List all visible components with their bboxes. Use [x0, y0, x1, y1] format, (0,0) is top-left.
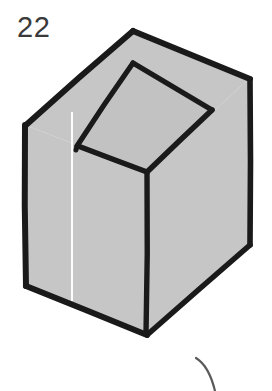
front-vertical-corner-edge: [146, 173, 147, 334]
outer-left-vertical-edge: [25, 125, 26, 286]
outer-right-vertical-edge: [250, 79, 251, 245]
figure-panel: 22: [0, 0, 272, 391]
box-fills: [25, 30, 250, 335]
open-box-illustration: [0, 0, 272, 391]
interior-left-corner-edge: [76, 146, 77, 150]
stray-curve-mark: [196, 358, 215, 391]
